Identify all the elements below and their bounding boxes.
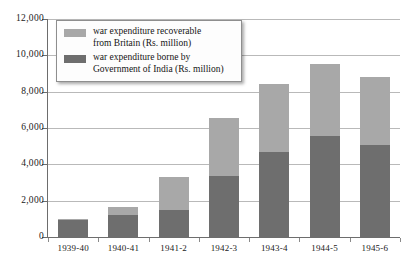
legend-label-recoverable: war expenditure recoverable from Britain…: [93, 26, 201, 49]
y-axis-label-wrap: 2,000: [0, 195, 44, 207]
y-axis-label: 0: [2, 231, 44, 241]
bar-segment-britain-1945-6: [360, 77, 390, 145]
legend-item-india: war expenditure borne by Government of I…: [64, 52, 234, 75]
y-axis-label-wrap: 4,000: [0, 158, 44, 170]
bar-segment-britain-1943-4: [259, 84, 289, 152]
x-tick: [350, 238, 351, 242]
bar-segment-india-1939-40: [58, 220, 88, 237]
legend-swatch-recoverable: [64, 29, 86, 37]
bar-segment-india-1944-5: [310, 136, 340, 237]
y-axis-label-wrap: 0: [0, 231, 44, 243]
y-axis-label: 8,000: [2, 86, 44, 96]
chart-legend: war expenditure recoverable from Britain…: [56, 20, 242, 82]
legend-item-recoverable: war expenditure recoverable from Britain…: [64, 26, 234, 49]
x-tick: [400, 238, 401, 242]
y-axis-label: 12,000: [2, 13, 44, 23]
x-axis-label-1945-6: 1945-6: [350, 243, 400, 253]
y-axis-label: 4,000: [2, 158, 44, 168]
x-tick: [48, 238, 49, 242]
bar-segment-india-1943-4: [259, 152, 289, 237]
x-axis-label-1943-4: 1943-4: [249, 243, 299, 253]
bar-segment-india-1945-6: [360, 145, 390, 237]
bar-segment-india-1942-3: [209, 176, 239, 237]
x-tick: [149, 238, 150, 242]
bar-segment-britain-1944-5: [310, 64, 340, 137]
bar-segment-india-1940-41: [108, 215, 138, 237]
bar-1941-2: [159, 177, 189, 237]
x-axis-label-1944-5: 1944-5: [299, 243, 349, 253]
bar-1942-3: [209, 118, 239, 237]
legend-label-india: war expenditure borne by Government of I…: [93, 52, 224, 75]
y-axis-label-wrap: 6,000: [0, 122, 44, 134]
x-axis-label-1939-40: 1939-40: [48, 243, 98, 253]
x-tick: [98, 238, 99, 242]
x-tick: [299, 238, 300, 242]
y-axis-label-wrap: 8,000: [0, 86, 44, 98]
y-axis-label: 10,000: [2, 49, 44, 59]
bar-segment-britain-1941-2: [159, 177, 189, 210]
x-axis-label-1942-3: 1942-3: [199, 243, 249, 253]
bar-1940-41: [108, 207, 138, 237]
x-tick: [199, 238, 200, 242]
x-axis-label-1940-41: 1940-41: [98, 243, 148, 253]
x-tick: [249, 238, 250, 242]
bar-1943-4: [259, 84, 289, 238]
grid-line-0: [48, 237, 400, 238]
bar-1939-40: [58, 219, 88, 237]
y-axis-label-wrap: 12,000: [0, 13, 44, 25]
bar-segment-britain-1942-3: [209, 118, 239, 176]
y-axis-label-wrap: 10,000: [0, 49, 44, 61]
stacked-bar-chart: 02,0004,0006,0008,00010,00012,000 1939-4…: [0, 0, 412, 272]
y-axis-label: 6,000: [2, 122, 44, 132]
bar-segment-britain-1939-40: [58, 219, 88, 220]
bar-segment-india-1941-2: [159, 210, 189, 237]
bar-1945-6: [360, 77, 390, 237]
y-axis-label: 2,000: [2, 195, 44, 205]
bar-1944-5: [310, 64, 340, 237]
x-axis-label-1941-2: 1941-2: [149, 243, 199, 253]
legend-swatch-india: [64, 55, 86, 63]
bar-segment-britain-1940-41: [108, 207, 138, 215]
